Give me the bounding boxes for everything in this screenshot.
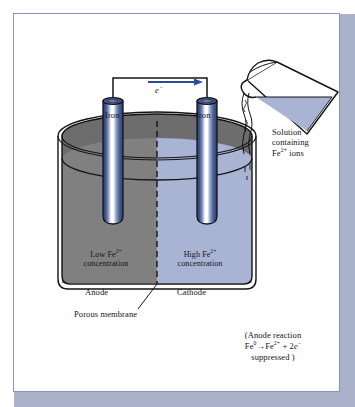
label-low-concentration: Low Fe2+ concentration	[69, 251, 143, 269]
reaction-arrow-icon: →	[257, 341, 266, 351]
porous-membrane-leader	[138, 284, 157, 309]
label-iron-left: Iron	[105, 111, 120, 121]
solution-line3-post: ions	[287, 148, 304, 158]
reaction-electron-superscript: −	[298, 340, 301, 346]
low-conc-charge: 2+	[116, 248, 122, 254]
label-anode: Anode	[85, 288, 108, 298]
label-solution-containing: Solution containing Fe2+ ions	[272, 127, 342, 158]
solution-line2: containing	[272, 137, 309, 147]
solution-line3-pre: Fe	[272, 148, 281, 158]
label-high-concentration: High Fe2+ concentration	[163, 251, 237, 269]
label-porous-membrane: Porous membrane	[74, 310, 137, 320]
reaction-plus-two: + 2	[280, 341, 294, 351]
low-conc-line2: concentration	[84, 259, 129, 268]
label-cathode: Cathode	[177, 288, 206, 298]
high-conc-line2: concentration	[178, 259, 223, 268]
reaction-line1: (Anode reaction	[245, 330, 302, 340]
pouring-flask	[241, 60, 338, 134]
label-iron-right: Iron	[196, 111, 211, 121]
reaction-equation: Fe0→Fe2+ + 2e−	[245, 341, 301, 351]
label-anode-reaction-note: (Anode reaction Fe0→Fe2+ + 2e− suppresse…	[213, 330, 333, 363]
label-electron-flow: e−	[155, 86, 163, 96]
reaction-fe0: Fe	[245, 341, 254, 351]
high-conc-charge: 2+	[210, 248, 216, 254]
solution-line1: Solution	[272, 127, 302, 137]
low-conc-line1: Low Fe	[90, 250, 115, 259]
figure-root: Iron Iron e− Low Fe2+ concentration High…	[0, 0, 355, 407]
reaction-line3: suppressed )	[251, 352, 294, 362]
electron-charge: −	[159, 84, 163, 90]
reaction-fe2: Fe	[265, 341, 274, 351]
high-conc-line1: High Fe	[184, 250, 211, 259]
